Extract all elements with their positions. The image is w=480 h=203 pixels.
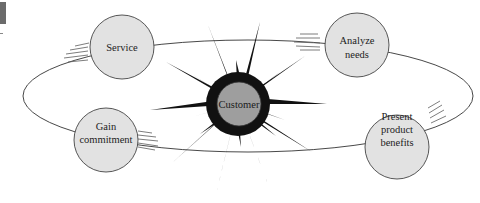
motion-lines-present (428, 101, 446, 123)
node-gain-commitment: Gain commitment (74, 108, 138, 172)
center-node-label: Customer (219, 99, 260, 110)
motion-lines-service (64, 43, 89, 62)
node-label: Gain (96, 121, 117, 132)
node-present-product-benefits: Present product benefits (365, 111, 429, 179)
node-label: Service (106, 42, 138, 53)
node-label: Analyze (340, 35, 375, 46)
node-label: commitment (79, 134, 132, 145)
node-label: needs (345, 49, 369, 60)
sales-cycle-diagram: Customer Service Analyze needs Present p… (0, 0, 480, 203)
node-label: Present (382, 111, 413, 122)
node-analyze-needs: Analyze needs (325, 13, 389, 77)
node-label: product (381, 124, 413, 135)
node-label: benefits (380, 137, 413, 148)
center-node-customer: Customer (217, 82, 261, 126)
node-service: Service (90, 15, 154, 79)
